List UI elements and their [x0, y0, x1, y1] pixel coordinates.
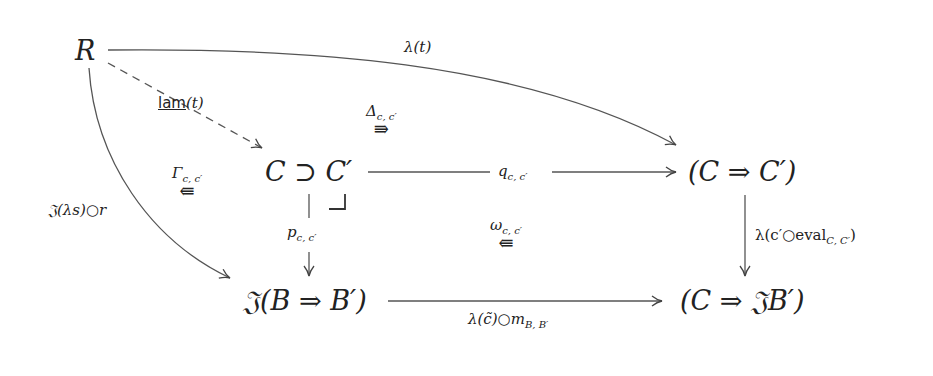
triple-arrow-left-icon: ⇚ — [490, 236, 522, 250]
two-cell-gamma: Γc, c′ ⇚ — [172, 166, 202, 198]
lambda-eval-subscript: C, C′ — [826, 235, 850, 246]
node-C-exp-C-prime: (C ⇒ C′) — [688, 158, 796, 185]
pullback-corner — [329, 194, 345, 209]
commutative-diagram: R C ⊃ C′ (C ⇒ C′) 𝔍(B ⇒ B′) (C ⇒ 𝔍B′) λ(… — [0, 0, 933, 376]
node-C-exp-JB-prime: (C ⇒ 𝔍B′) — [680, 287, 805, 314]
lam-text: lam — [158, 94, 186, 112]
p-main: p — [287, 223, 297, 241]
node-C-pullback: C ⊃ C′ — [265, 158, 352, 185]
label-q: qc, c′ — [498, 164, 527, 182]
label-J-lambda-s-r: 𝔍(λs)○r — [48, 203, 106, 218]
triple-arrow-right-icon: ⇛ — [366, 122, 397, 136]
label-p: pc, c′ — [287, 225, 316, 243]
triple-arrow-left-icon: ⇚ — [172, 184, 202, 198]
lambda-ctilde-main: λ(c̃)○m — [468, 310, 525, 328]
label-lambda-eval: λ(c′○evalC, C′) — [755, 228, 856, 246]
lam-arg: (t) — [186, 94, 204, 112]
label-lambda-t: λ(t) — [404, 40, 431, 55]
two-cell-delta: Δc, c′ ⇛ — [366, 104, 397, 136]
lambda-eval-main: λ(c′○eval — [755, 226, 826, 244]
p-subscript: c, c′ — [297, 232, 317, 243]
diagram-edges — [0, 0, 933, 376]
lambda-eval-close: ) — [850, 226, 856, 244]
two-cell-omega: ωc, c′ ⇚ — [490, 218, 522, 250]
q-main: q — [498, 162, 508, 180]
label-lambda-ctilde: λ(c̃)○mB, B′ — [468, 312, 548, 330]
node-R: R — [75, 37, 95, 64]
q-subscript: c, c′ — [508, 171, 528, 182]
lambda-ctilde-subscript: B, B′ — [525, 319, 548, 330]
label-lam-t: lam(t) — [158, 96, 204, 111]
node-J-B-exp-B-prime: 𝔍(B ⇒ B′) — [243, 287, 367, 314]
